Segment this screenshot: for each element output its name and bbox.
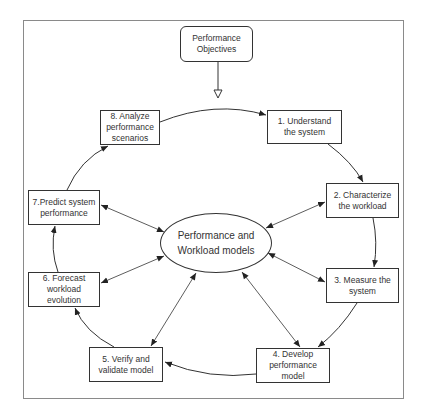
node-step-2-characterize-workload: 2. Characterize the workload bbox=[326, 183, 399, 218]
node-step-4-develop-model: 4. Develop performance model bbox=[256, 348, 330, 383]
node-step-1-understand-system: 1. Understand the system bbox=[267, 110, 342, 144]
node-step-5-verify-validate: 5. Verify and validate model bbox=[89, 347, 163, 382]
node-step-6-forecast-workload: 6. Forecast workload evolution bbox=[28, 272, 100, 307]
node-step-8-analyze-scenarios: 8. Analyze performance scenarios bbox=[100, 110, 160, 145]
node-step-7-predict-performance: 7.Predict system performance bbox=[28, 190, 100, 225]
node-performance-workload-models: Performance and Workload models bbox=[160, 213, 272, 273]
node-step-3-measure-system: 3. Measure the system bbox=[326, 268, 399, 303]
objectives-arrow bbox=[214, 62, 222, 98]
node-performance-objectives: Performance Objectives bbox=[180, 26, 253, 62]
